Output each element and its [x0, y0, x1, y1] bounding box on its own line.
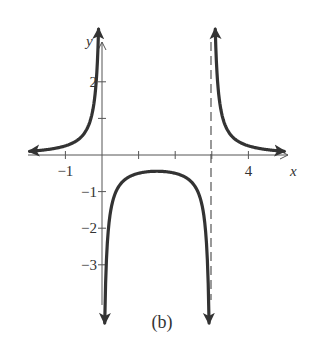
y-tick-label: −2 [81, 220, 97, 236]
graph: −14 2−1−2−3 x y [0, 0, 324, 347]
figure-caption: (b) [0, 312, 324, 333]
x-tick-label: 4 [245, 163, 253, 179]
middle-branch-curve [105, 171, 209, 323]
y-tick-label: −1 [81, 184, 97, 200]
y-tick-label: −3 [81, 257, 97, 273]
x-axis-label: x [289, 163, 297, 179]
x-tick-label: −1 [57, 163, 73, 179]
right-branch-curve [215, 29, 284, 151]
y-axis-label: y [84, 33, 93, 49]
